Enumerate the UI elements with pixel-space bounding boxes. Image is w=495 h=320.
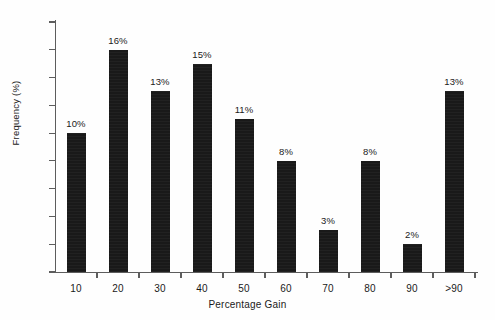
bar: [277, 161, 296, 272]
x-axis-tick: [348, 272, 349, 278]
x-axis-tick: [306, 272, 307, 278]
bar: [319, 230, 338, 272]
bar: [403, 244, 422, 272]
bar-value-label: 13%: [427, 77, 481, 87]
bar: [151, 91, 170, 272]
bar-value-label: 8%: [259, 147, 313, 157]
bar-value-label: 10%: [49, 119, 103, 129]
x-axis-tick: [474, 272, 475, 278]
bar-value-label: 11%: [217, 105, 271, 115]
bar-value-label: 2%: [385, 230, 439, 240]
x-axis-tick: [432, 272, 433, 278]
bar-value-label: 3%: [301, 216, 355, 226]
bar: [67, 133, 86, 272]
x-axis-tick: [96, 272, 97, 278]
x-axis-tick-label: >90: [429, 283, 479, 294]
bar-value-label: 16%: [91, 36, 145, 46]
bar: [361, 161, 380, 272]
bar-value-label: 8%: [343, 147, 397, 157]
x-axis-tick: [138, 272, 139, 278]
x-axis-tick: [390, 272, 391, 278]
x-axis-tick: [222, 272, 223, 278]
x-axis-title: Percentage Gain: [0, 299, 495, 310]
bar-chart-figure: Frequency (%) Percentage Gain 0246810121…: [0, 0, 495, 320]
bar-value-label: 15%: [175, 50, 229, 60]
y-axis-title: Frequency (%): [11, 53, 21, 173]
x-axis-tick: [264, 272, 265, 278]
bar: [193, 64, 212, 272]
bar: [445, 91, 464, 272]
bar: [235, 119, 254, 272]
x-axis-tick: [180, 272, 181, 278]
bar-value-label: 13%: [133, 77, 187, 87]
bar: [109, 50, 128, 272]
